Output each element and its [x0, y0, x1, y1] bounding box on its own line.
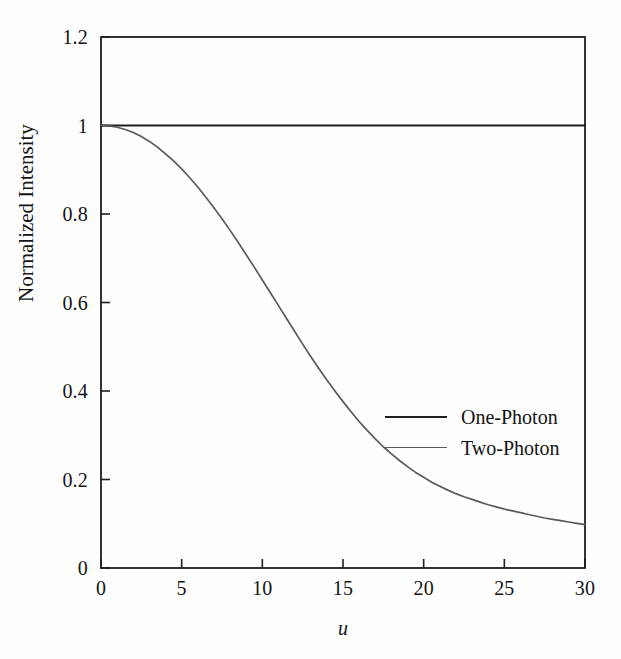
legend-line-swatch	[385, 416, 447, 418]
y-tick-label: 0.2	[0, 468, 88, 491]
x-tick-label: 15	[333, 577, 353, 600]
x-axis-ticks	[101, 559, 585, 568]
legend-item[interactable]: One-Photon	[385, 401, 585, 432]
y-axis-title: Normalized Intensity	[14, 124, 39, 302]
y-tick-label: 0.4	[0, 380, 88, 403]
y-axis-ticks	[101, 37, 110, 568]
legend-item-label: Two-Photon	[461, 438, 560, 458]
x-tick-label: 20	[413, 577, 433, 600]
plot-frame	[101, 37, 585, 568]
legend-item[interactable]: Two-Photon	[385, 432, 585, 463]
x-tick-label: 30	[575, 577, 595, 600]
y-tick-label: 0	[0, 557, 88, 580]
x-tick-label: 25	[494, 577, 514, 600]
series-line-two-photon	[101, 126, 585, 525]
x-tick-label: 0	[96, 577, 106, 600]
x-axis-title: u	[338, 617, 348, 640]
x-tick-label: 10	[252, 577, 272, 600]
legend-item-label: One-Photon	[461, 407, 558, 427]
x-tick-label: 5	[177, 577, 187, 600]
axes-frame	[101, 37, 585, 568]
legend-line-swatch	[385, 447, 447, 449]
figure-container: 051015202530 00.20.40.60.811.2 u Normali…	[0, 0, 621, 659]
y-tick-label: 1.2	[0, 26, 88, 49]
chart-plot-area	[0, 0, 621, 659]
chart-legend: One-PhotonTwo-Photon	[385, 401, 585, 463]
data-series-group	[101, 126, 585, 525]
